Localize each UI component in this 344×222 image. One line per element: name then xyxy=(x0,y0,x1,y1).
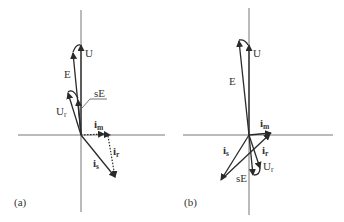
label-is-a: is xyxy=(93,157,99,171)
arc-E-to-U-a xyxy=(73,45,80,52)
label-ir-b: ir xyxy=(262,144,269,158)
label-Ur-a: Ur xyxy=(56,105,67,119)
phasor-diagram: U E sE Ur im ir is (a) U E im is ir Ur s… xyxy=(0,0,344,222)
label-sE-a: sE xyxy=(94,87,105,99)
label-sE-b: sE xyxy=(236,172,247,184)
label-ir-a: ir xyxy=(113,145,120,159)
panel-a: U E sE Ur im ir is (a) xyxy=(14,10,165,212)
vector-E-b xyxy=(239,41,249,135)
label-im-b: im xyxy=(260,117,270,131)
label-im-a: im xyxy=(94,118,104,132)
caption-b: (b) xyxy=(184,196,197,209)
arc-E-to-U-b xyxy=(239,40,248,45)
caption-a: (a) xyxy=(14,196,27,209)
arc-Ur-to-sE-b xyxy=(254,168,260,175)
label-is-b: is xyxy=(223,144,229,158)
sE-leader-line-a xyxy=(82,99,90,108)
im-head-a xyxy=(104,131,111,138)
label-E-b: E xyxy=(229,75,236,87)
label-U-a: U xyxy=(85,47,93,59)
panel-b: U E im is ir Ur sE (b) xyxy=(183,8,333,215)
label-E-a: E xyxy=(64,68,71,80)
label-U-b: U xyxy=(253,47,261,59)
label-Ur-b: Ur xyxy=(263,160,274,174)
